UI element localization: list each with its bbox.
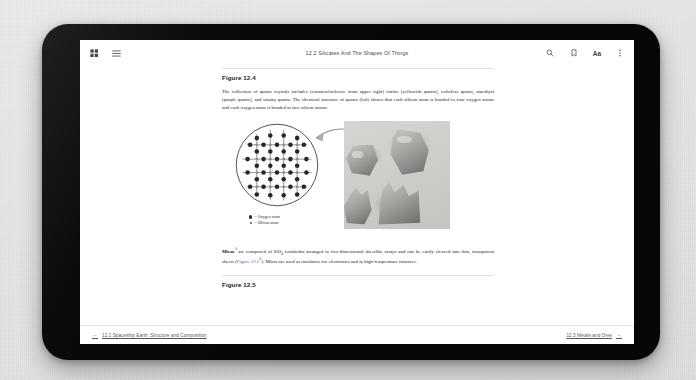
previous-section-label: 12.1 Spaceship Earth: Structure and Comp… xyxy=(102,333,207,338)
oxygen-atom-dot xyxy=(249,215,252,218)
header-divider xyxy=(222,68,494,69)
scene: 12.2 Silicates And The Shapes Of Things xyxy=(0,0,696,380)
quartz-specimen xyxy=(376,181,421,224)
previous-section-link[interactable]: ← 12.1 Spaceship Earth: Structure and Co… xyxy=(92,332,207,338)
content-column: Figure 12.4 The collection of quartz cry… xyxy=(222,68,494,295)
quartz-specimen xyxy=(346,145,378,177)
tablet-screen: 12.2 Silicates And The Shapes Of Things xyxy=(80,40,634,344)
micas-paragraph: Micas⧉ are composed of SiO4 tetrahedra a… xyxy=(222,247,494,266)
quartz-crystals-photo xyxy=(344,121,450,229)
header-right-icons: Aa xyxy=(545,48,625,59)
figure-12-4-heading: Figure 12.4 xyxy=(222,74,494,81)
header-left-icons xyxy=(89,48,122,59)
arrow-right-icon: → xyxy=(616,332,622,338)
figure-12-4-graphic: = Oxygen atom = Silicon atom xyxy=(222,121,494,247)
figure-12-5-link[interactable]: Figure 12.5 xyxy=(237,259,260,264)
arrow-left-icon: ← xyxy=(92,332,98,338)
micas-term: Micas xyxy=(222,248,235,253)
figure-12-5-divider xyxy=(222,275,494,276)
legend-item-silicon: = Silicon atom xyxy=(249,220,319,226)
table-of-contents-icon[interactable] xyxy=(111,48,122,59)
micas-text-before: are composed of SiO xyxy=(237,248,282,253)
font-size-icon[interactable]: Aa xyxy=(593,48,601,59)
app-header: 12.2 Silicates And The Shapes Of Things xyxy=(80,40,634,66)
silicon-atom-dot xyxy=(250,222,252,224)
search-icon[interactable] xyxy=(545,48,556,59)
specimen-highlight xyxy=(352,151,363,157)
lattice-svg xyxy=(235,123,319,207)
diagram-legend: = Oxygen atom = Silicon atom xyxy=(235,214,319,226)
page-content-area[interactable]: Figure 12.4 The collection of quartz cry… xyxy=(80,66,634,325)
font-size-label: Aa xyxy=(593,50,601,57)
quartz-specimen xyxy=(344,188,372,225)
figure-12-4-caption: The collection of quartz crystals includ… xyxy=(222,88,494,112)
specimen-highlight xyxy=(397,136,412,144)
overflow-menu-icon[interactable] xyxy=(614,48,625,59)
next-section-label: 12.3 Metals and Ores xyxy=(566,333,612,338)
quartz-lattice-diagram: = Oxygen atom = Silicon atom xyxy=(235,123,319,226)
grid-view-icon[interactable] xyxy=(89,48,100,59)
tablet-device: 12.2 Silicates And The Shapes Of Things xyxy=(42,24,660,360)
figure-12-5-heading: Figure 12.5 xyxy=(222,281,494,288)
micas-text-after: ). Micas are used as insulators for elec… xyxy=(261,259,417,264)
bookmark-icon[interactable] xyxy=(569,48,580,59)
legend-label-silicon: = Silicon atom xyxy=(254,220,278,226)
next-section-link[interactable]: 12.3 Metals and Ores → xyxy=(566,332,622,338)
bottom-navigation: ← 12.1 Spaceship Earth: Structure and Co… xyxy=(80,325,634,344)
